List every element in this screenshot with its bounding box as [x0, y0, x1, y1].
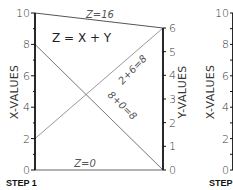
next-axis-tick-label: 8	[222, 38, 229, 51]
sum-2-6-line-label: 2+6=8	[116, 53, 149, 86]
next-axis-tick-label: 4	[222, 101, 229, 114]
next-axis-tick-label: 0	[222, 164, 229, 177]
left-axis-tick-label: 0	[23, 164, 30, 177]
z-16-line-label: Z=16	[85, 9, 114, 20]
right-axis-tick-label: 0	[169, 164, 176, 177]
right-axis-tick-label: 2	[169, 117, 176, 130]
left-axis-tick-label: 10	[16, 7, 30, 20]
right-axis-tick-label: 1	[169, 140, 176, 153]
next-axis-tick-label: 2	[222, 133, 229, 146]
left-axis-tick-label: 4	[23, 101, 30, 114]
nomogram-diagram: Z=16Z=02+6=88+0=8 0246810 0123456 024681…	[0, 0, 233, 190]
left-axis-tick-label: 6	[23, 70, 30, 83]
left-axis-tick-label: 2	[23, 133, 30, 146]
next-axis-tick-label: 10	[215, 7, 229, 20]
next-axis-title: X-VALUES	[204, 65, 217, 120]
right-axis-tick-label: 5	[169, 46, 176, 59]
right-axis-tick-label: 6	[169, 22, 176, 35]
z-0-line-label: Z=0	[73, 158, 96, 169]
right-axis-tick-label: 4	[169, 69, 176, 82]
step-1-label: STEP 1	[6, 178, 37, 188]
formula-title: Z = X + Y	[52, 31, 112, 45]
right-axis-title: Y-VALUES	[176, 65, 189, 119]
step-2-label: STEP	[209, 178, 233, 188]
left-axis-tick-label: 8	[23, 38, 30, 51]
next-axis-tick-label: 6	[222, 70, 229, 83]
sum-8-0-line-label: 8+0=8	[106, 89, 139, 122]
right-axis-y-values: 0123456	[163, 22, 176, 177]
next-panel-axis: 0246810	[215, 7, 233, 177]
left-axis-title: X-VALUES	[8, 65, 21, 120]
right-axis-tick-label: 3	[169, 93, 176, 106]
